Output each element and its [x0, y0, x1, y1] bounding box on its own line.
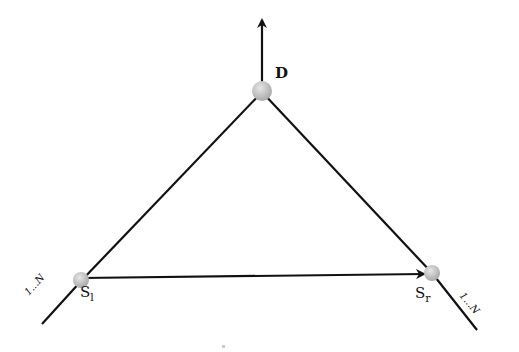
- branch-left: [42, 280, 82, 324]
- edge-d-sr: [262, 92, 432, 273]
- stray-mark: [222, 345, 225, 348]
- node-sr: [424, 265, 440, 281]
- node-d: [252, 81, 272, 101]
- diagram-graphics: [0, 0, 519, 352]
- diagram-canvas: D Sl Sr 1...N 1...N: [0, 0, 519, 352]
- node-d-label: D: [275, 64, 288, 82]
- node-sr-label: Sr: [415, 284, 431, 305]
- edge-sl-sr: [82, 274, 424, 278]
- edge-sl-d: [82, 92, 262, 280]
- node-sl-label: Sl: [80, 283, 94, 304]
